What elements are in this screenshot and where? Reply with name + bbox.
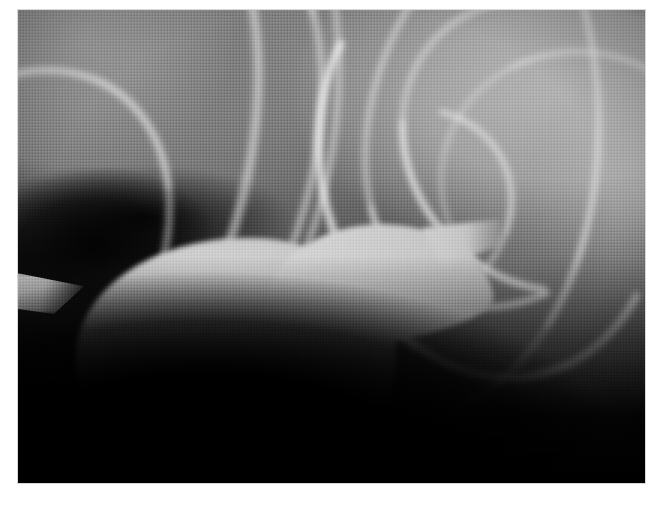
radiograph-image	[18, 10, 645, 483]
rib-tip-left-margin	[18, 272, 84, 314]
gallbladder-opacity	[76, 222, 486, 472]
page-root	[0, 0, 661, 507]
figure-container	[18, 10, 645, 483]
